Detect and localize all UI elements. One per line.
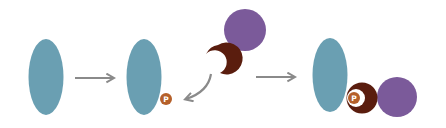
- phosphate-group-bound: P: [348, 92, 360, 104]
- protein-phosphorylated: [127, 39, 162, 115]
- phosphate-label-bound: P: [351, 94, 357, 103]
- phospho-binding-diagram: P P: [0, 0, 446, 128]
- protein-unmodified: [29, 39, 64, 115]
- protein-bound: [313, 38, 348, 112]
- phosphate-label: P: [163, 95, 169, 104]
- arrow-recruitment: [186, 74, 211, 99]
- reader-domain-free: [206, 42, 243, 74]
- phosphate-group: P: [160, 93, 172, 105]
- partner-protein-bound: [377, 77, 417, 117]
